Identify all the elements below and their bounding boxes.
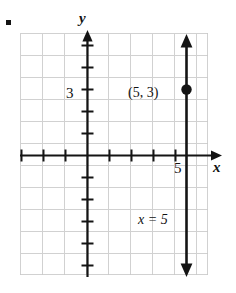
graphed-line-arrow-down <box>181 264 193 278</box>
graph-vector-layer <box>0 0 236 293</box>
y-tick-label-3: 3 <box>66 86 74 101</box>
graphed-line-arrow-up <box>181 34 193 48</box>
y-axis-arrow <box>82 30 92 42</box>
y-axis-label: y <box>79 11 86 26</box>
x-axis-label: x <box>213 160 221 175</box>
point-coordinate-label: (5, 3) <box>128 86 158 100</box>
coordinate-plane-figure: y x 3 5 (5, 3) x = 5 <box>0 0 236 293</box>
x-tick-label-5: 5 <box>174 161 182 176</box>
plotted-point-5-3 <box>181 84 191 94</box>
line-equation-label: x = 5 <box>138 213 168 227</box>
